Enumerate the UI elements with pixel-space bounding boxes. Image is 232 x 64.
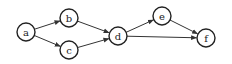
edge-a-c — [34, 35, 60, 46]
node-label: b — [66, 13, 72, 24]
nodes-group: abcdef — [17, 7, 215, 59]
node-c: c — [60, 41, 78, 59]
edge-c-d — [78, 39, 109, 48]
node-label: c — [66, 45, 72, 56]
edge-e-f — [170, 20, 197, 34]
node-a: a — [17, 23, 35, 41]
edge-d-e — [126, 20, 153, 32]
node-e: e — [153, 7, 171, 25]
edge-b-d — [77, 21, 109, 33]
node-b: b — [60, 9, 78, 27]
node-d: d — [109, 27, 127, 45]
node-label: a — [23, 27, 29, 38]
dag-diagram: abcdef — [0, 0, 232, 64]
edge-d-f — [127, 36, 197, 38]
node-label: e — [159, 11, 165, 22]
node-label: d — [115, 31, 122, 42]
edge-a-b — [35, 21, 60, 29]
node-f: f — [197, 29, 215, 47]
